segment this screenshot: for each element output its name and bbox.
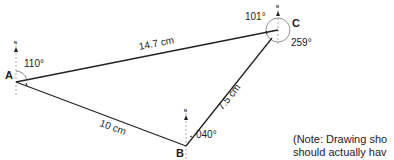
note-text: (Note: Drawing sho should actually hav xyxy=(293,133,387,159)
bearing-label-b: 040° xyxy=(196,130,217,140)
north-label-a: N xyxy=(14,41,17,45)
north-label-b: N xyxy=(184,109,187,113)
north-arrow-b xyxy=(184,115,188,120)
side-ac xyxy=(16,30,278,82)
north-arrow-a xyxy=(14,47,18,52)
point-label-a: A xyxy=(5,70,13,81)
point-label-b: B xyxy=(176,148,184,159)
note-line-2: should actually hav xyxy=(293,146,387,159)
side-ab xyxy=(16,82,186,146)
bearing-label-c2: 259° xyxy=(291,38,312,48)
angle-tick-b xyxy=(190,136,192,137)
north-arrow-c xyxy=(276,11,280,16)
point-label-c: C xyxy=(292,18,300,29)
bearing-label-a: 110° xyxy=(24,59,44,69)
north-label-c: N xyxy=(276,5,279,9)
bearing-label-c1: 101° xyxy=(245,12,266,22)
angle-arc-a xyxy=(16,71,27,79)
note-line-1: (Note: Drawing sho xyxy=(293,133,387,146)
